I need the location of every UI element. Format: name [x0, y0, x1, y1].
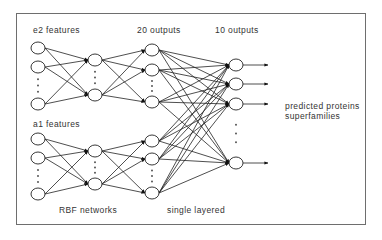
ellipsis-dot	[151, 80, 153, 82]
output-node-e2	[145, 96, 159, 108]
edge	[45, 139, 88, 151]
edge	[45, 60, 88, 104]
ellipsis-dot	[235, 133, 237, 135]
ellipsis-dot	[235, 141, 237, 143]
edge	[159, 104, 229, 141]
output-node-a1	[145, 187, 159, 199]
ellipsis-dot	[37, 85, 39, 87]
edge	[45, 184, 88, 194]
final-output-node	[229, 98, 243, 110]
a1-features-label: a1 features	[33, 119, 80, 129]
edge	[102, 141, 145, 151]
input-node-e2	[31, 98, 45, 110]
output-node-e2	[145, 44, 159, 56]
edge	[159, 50, 229, 65]
final-output-node	[229, 59, 243, 71]
edge	[45, 48, 88, 60]
ellipsis-dot	[151, 175, 153, 177]
input-node-e2	[31, 42, 45, 54]
edge	[102, 151, 145, 193]
input-node-a1	[31, 152, 45, 164]
output-node-a1	[145, 135, 159, 147]
rbf-networks-label: RBF networks	[59, 205, 117, 215]
edge	[102, 70, 145, 95]
superfamilies-label: superfamilies	[285, 111, 340, 121]
ellipsis-dot	[151, 85, 153, 87]
ten-outputs-label: 10 outputs	[215, 25, 259, 35]
ellipsis-dot	[94, 167, 96, 169]
ellipsis-dot	[94, 82, 96, 84]
ellipsis-dot	[151, 90, 153, 92]
ellipsis-dot	[235, 124, 237, 126]
ellipsis-dot	[37, 91, 39, 93]
edge	[159, 84, 229, 159]
edge	[45, 95, 88, 104]
edge	[159, 70, 229, 84]
final-output-node	[229, 157, 243, 169]
final-output-node	[229, 78, 243, 90]
ellipsis-dot	[94, 172, 96, 174]
ellipsis-dot	[151, 181, 153, 183]
edge	[102, 50, 145, 95]
edge	[45, 151, 88, 194]
edge	[102, 184, 145, 193]
rbf-hidden-node-e2	[88, 89, 102, 101]
edge	[102, 60, 145, 70]
rbf-hidden-node-e2	[88, 54, 102, 66]
ellipsis-dot	[151, 170, 153, 172]
ellipsis-dot	[37, 175, 39, 177]
edge	[102, 50, 145, 60]
output-node-e2	[145, 64, 159, 76]
edge	[159, 84, 229, 193]
input-node-e2	[31, 61, 45, 73]
ellipsis-dot	[37, 169, 39, 171]
e2-features-label: e2 features	[33, 25, 80, 35]
ellipsis-dot	[94, 161, 96, 163]
ellipsis-dot	[94, 77, 96, 79]
ellipsis-dot	[37, 78, 39, 80]
input-node-a1	[31, 188, 45, 200]
edge	[159, 163, 229, 193]
output-node-a1	[145, 153, 159, 165]
edge	[45, 60, 88, 67]
input-node-a1	[31, 133, 45, 145]
twenty-outputs-label: 20 outputs	[137, 25, 181, 35]
rbf-hidden-node-a1	[88, 178, 102, 190]
ellipsis-dot	[37, 181, 39, 183]
single-layered-label: single layered	[167, 205, 225, 215]
rbf-hidden-node-a1	[88, 145, 102, 157]
ellipsis-dot	[94, 71, 96, 73]
predicted-proteins-label: predicted proteins	[285, 101, 360, 111]
